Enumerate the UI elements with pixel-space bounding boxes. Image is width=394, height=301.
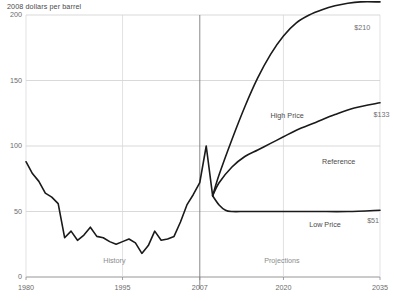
y-tick-label: 150	[0, 76, 22, 85]
annotation-reference: Reference	[322, 157, 355, 166]
series-line-low-price	[213, 196, 380, 212]
annotation-high-price: High Price	[271, 111, 304, 120]
annotation-projections: Projections	[264, 256, 300, 265]
y-tick-label: 0	[0, 272, 22, 281]
annotation-history: History	[103, 256, 125, 265]
y-tick-label: 100	[0, 141, 22, 150]
x-tick-label: 2035	[360, 283, 394, 292]
annotation-51: $51	[367, 216, 379, 225]
y-tick-label: 200	[0, 10, 22, 19]
annotation-low-price: Low Price	[309, 220, 341, 229]
x-tick-label: 1980	[6, 283, 46, 292]
series-line-history	[26, 146, 213, 253]
annotation-210: $210	[354, 23, 370, 32]
y-tick-label: 50	[0, 207, 22, 216]
x-tick-label: 2007	[180, 283, 220, 292]
x-tick-label: 1995	[103, 283, 143, 292]
annotation-133: $133	[374, 110, 390, 119]
x-tick-label: 2020	[263, 283, 303, 292]
